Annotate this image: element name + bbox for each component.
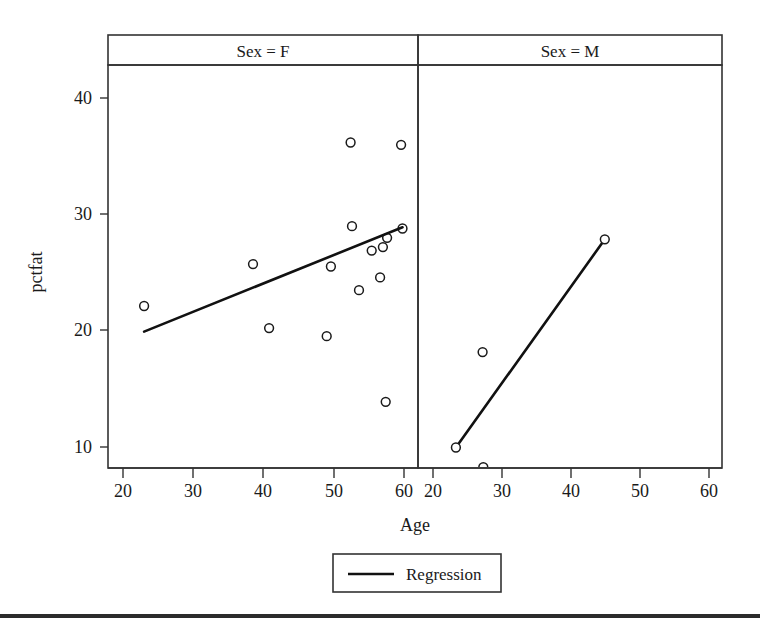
data-point xyxy=(327,262,336,271)
panel-title-m: Sex = M xyxy=(541,42,600,61)
data-point xyxy=(367,246,376,255)
data-point xyxy=(397,140,406,149)
y-tick-label: 20 xyxy=(74,320,92,340)
x-tick-label: 30 xyxy=(493,481,511,501)
panel-sex-m: Sex = M xyxy=(418,35,722,472)
scatter-points-f xyxy=(140,138,407,406)
x-tick-label: 50 xyxy=(325,481,343,501)
data-point xyxy=(479,463,488,472)
data-point xyxy=(452,443,461,452)
panel-sex-f: Sex = F xyxy=(108,35,418,468)
data-point xyxy=(265,324,274,333)
data-point xyxy=(600,235,609,244)
y-tick-label: 40 xyxy=(74,88,92,108)
y-tick-label: 10 xyxy=(74,437,92,457)
data-point xyxy=(322,332,331,341)
plot-area-m xyxy=(452,235,610,472)
data-point xyxy=(376,273,385,282)
legend-item-label: Regression xyxy=(406,565,482,584)
x-tick-label: 60 xyxy=(700,481,718,501)
data-point xyxy=(348,222,357,231)
plot-area-f xyxy=(140,138,407,406)
x-tick-label: 40 xyxy=(254,481,272,501)
data-point xyxy=(478,348,487,357)
y-axis-title: pctfat xyxy=(26,252,46,293)
data-point xyxy=(249,260,258,269)
scatter-points-m xyxy=(452,235,610,472)
panel-plot-frame-m xyxy=(418,65,722,468)
data-point xyxy=(381,397,390,406)
x-tick-label: 30 xyxy=(184,481,202,501)
x-tick-label: 20 xyxy=(114,481,132,501)
x-tick-label: 20 xyxy=(424,481,442,501)
x-tick-label: 40 xyxy=(562,481,580,501)
panel-plot-frame-f xyxy=(108,65,418,468)
x-axis-left: 20 30 40 50 60 xyxy=(108,468,418,501)
data-point xyxy=(355,286,364,295)
data-point xyxy=(379,243,388,252)
chart-svg: Sex = F xyxy=(0,0,760,629)
data-point xyxy=(140,302,149,311)
x-tick-label: 60 xyxy=(395,481,413,501)
y-tick-label: 30 xyxy=(74,204,92,224)
y-axis: 40 30 20 10 pctfat xyxy=(26,88,108,457)
regression-line-m xyxy=(456,239,605,447)
panel-title-f: Sex = F xyxy=(236,42,289,61)
x-axis-title: Age xyxy=(400,515,430,535)
legend[interactable]: Regression xyxy=(333,554,501,592)
x-axis-right: 20 30 40 50 60 xyxy=(418,468,722,501)
x-tick-label: 50 xyxy=(631,481,649,501)
chart-figure: Sex = F xyxy=(0,0,760,629)
regression-line-f xyxy=(144,227,402,331)
data-point xyxy=(346,138,355,147)
